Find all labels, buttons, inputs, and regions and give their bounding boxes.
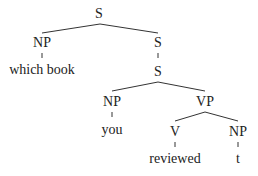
leaf-which-book: which book	[9, 63, 75, 77]
edge-vp-v	[175, 112, 205, 121]
edge-root-np	[42, 24, 100, 33]
node-np-right: NP	[229, 125, 247, 139]
leaf-trace-t: t	[236, 152, 240, 166]
node-v: V	[170, 125, 180, 139]
tree-edges	[0, 0, 258, 176]
node-vp: VP	[196, 95, 214, 109]
node-np-left: NP	[33, 36, 51, 50]
node-root-s: S	[95, 7, 103, 21]
edge-vp-np	[205, 112, 238, 121]
node-s-lower: S	[154, 65, 162, 79]
edge-s-vp	[158, 82, 205, 91]
syntax-tree: S NP which book S S NP you VP V reviewed…	[0, 0, 258, 176]
leaf-you: you	[102, 123, 123, 137]
node-np-mid: NP	[103, 95, 121, 109]
edge-s-np	[112, 82, 158, 91]
node-s-upper: S	[154, 36, 162, 50]
leaf-reviewed: reviewed	[149, 152, 200, 166]
edge-root-s	[100, 24, 158, 33]
